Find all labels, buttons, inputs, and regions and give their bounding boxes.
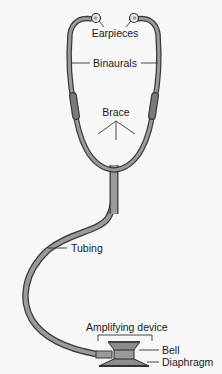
label-brace: Brace — [102, 106, 130, 118]
label-bell: Bell — [162, 344, 180, 356]
label-diaphragm: Diaphragm — [162, 356, 214, 368]
label-tubing: Tubing — [71, 242, 103, 254]
stethoscope-diagram: Earpieces Binaurals Brace Tubing Amplify… — [0, 0, 222, 374]
label-amplifying-device: Amplifying device — [86, 321, 168, 333]
stethoscope-illustration: Earpieces Binaurals Brace Tubing Amplify… — [0, 0, 222, 374]
chest-piece — [96, 341, 149, 367]
leader-lines — [48, 21, 159, 362]
label-earpieces: Earpieces — [92, 27, 139, 39]
binaurals — [69, 19, 159, 170]
label-binaurals: Binaurals — [93, 57, 137, 69]
diaphragm — [99, 359, 149, 366]
